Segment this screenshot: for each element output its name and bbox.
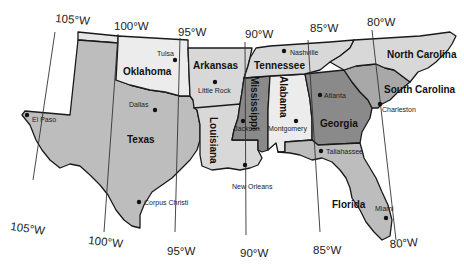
city-label-dallas: Dallas [129, 101, 149, 108]
lon-label-top-85w: 85°W [310, 22, 338, 34]
state-label-louisiana: Louisiana [208, 117, 219, 164]
state-label-mississippi: Mississippi [249, 76, 260, 130]
city-label-tallahassee: Tallahassee [326, 148, 363, 155]
city-label-corpus-christi: Corpus Christi [144, 199, 189, 207]
city-dot-new-orleans [243, 163, 247, 167]
lon-label-top-90w: 90°W [245, 28, 273, 40]
lon-label-bottom-105w: 105°W [10, 220, 46, 237]
lon-label-top-80w: 80°W [367, 16, 395, 28]
lon-label-bottom-95w: 95°W [167, 245, 195, 257]
city-label-new-orleans: New Orleans [232, 183, 273, 190]
lon-label-bottom-90w: 90°W [240, 247, 268, 259]
city-label-little-rock: Little Rock [198, 87, 231, 94]
city-label-nashville: Nashville [290, 49, 319, 56]
state-label-florida: Florida [332, 199, 366, 210]
state-florida [278, 140, 392, 240]
lon-label-bottom-85w: 85°W [313, 244, 341, 256]
city-dot-tallahassee [319, 149, 323, 153]
state-label-alabama: Alabama [278, 76, 289, 118]
state-label-arkansas: Arkansas [193, 60, 238, 71]
state-label-tennessee: Tennessee [254, 60, 305, 71]
city-label-miami: Miami [375, 205, 394, 212]
city-dot-atlanta [318, 93, 322, 97]
city-dot-corpus-christi [137, 200, 141, 204]
city-dot-nashville [282, 49, 286, 53]
lon-label-top-100w: 100°W [114, 20, 149, 32]
state-label-north-carolina: North Carolina [387, 49, 457, 60]
city-dot-montgomery [294, 119, 298, 123]
state-label-georgia: Georgia [320, 118, 358, 129]
city-label-tulsa: Tulsa [157, 50, 174, 57]
city-dot-tulsa [173, 58, 177, 62]
city-label-jackson: Jackson [234, 125, 260, 132]
state-label-texas: Texas [127, 134, 155, 145]
southern-us-map: 105°W 100°W 95°W 90°W 85°W 80°W 105°W 10… [0, 0, 464, 266]
state-label-oklahoma: Oklahoma [123, 66, 172, 77]
city-dot-el-paso [25, 113, 29, 117]
lon-label-bottom-80w: 80°W [389, 236, 418, 250]
city-dot-jackson [241, 119, 245, 123]
city-label-charleston: Charleston [382, 106, 416, 113]
city-dot-miami [384, 216, 388, 220]
city-dot-little-rock [213, 80, 217, 84]
city-dot-dallas [153, 108, 157, 112]
city-label-el-paso: El Paso [32, 116, 56, 123]
city-label-montgomery: Montgomery [268, 125, 307, 133]
lon-label-top-95w: 95°W [178, 26, 206, 38]
lon-label-top-105w: 105°W [55, 12, 91, 27]
state-label-south-carolina: South Carolina [384, 84, 456, 95]
lon-label-bottom-100w: 100°W [88, 234, 124, 250]
city-label-atlanta: Atlanta [324, 92, 346, 99]
